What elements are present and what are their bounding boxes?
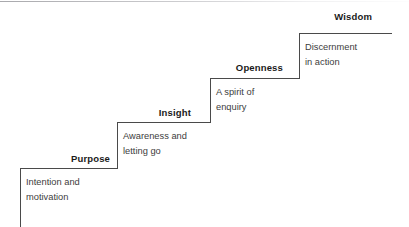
step-insight-tread <box>117 122 211 123</box>
step-insight-description-line1: Awareness and <box>123 129 187 144</box>
step-purpose-tread <box>20 168 118 169</box>
step-purpose-riser <box>20 168 21 227</box>
step-wisdom-label: Wisdom <box>290 11 372 22</box>
step-purpose-description-line2: motivation <box>26 190 68 205</box>
step-purpose-label: Purpose <box>18 153 110 164</box>
step-openness-riser <box>210 78 211 123</box>
step-openness-description-line2: enquiry <box>216 100 247 115</box>
step-openness-description-line1: A spirit of <box>216 85 254 100</box>
step-insight-riser <box>117 122 118 169</box>
step-wisdom-description-line1: Discernment <box>305 40 357 55</box>
staircase-diagram: Purpose Intention and motivation Insight… <box>0 0 409 227</box>
step-wisdom-riser <box>299 33 300 79</box>
step-openness-tread <box>210 78 300 79</box>
step-purpose-description-line1: Intention and <box>26 175 80 190</box>
scan-artifact-line <box>0 1 409 2</box>
step-insight-description-line2: letting go <box>123 144 161 159</box>
step-wisdom-description-line2: in action <box>305 55 340 70</box>
step-openness-label: Openness <box>200 62 283 73</box>
step-insight-label: Insight <box>110 107 191 118</box>
step-wisdom-tread <box>299 33 392 34</box>
